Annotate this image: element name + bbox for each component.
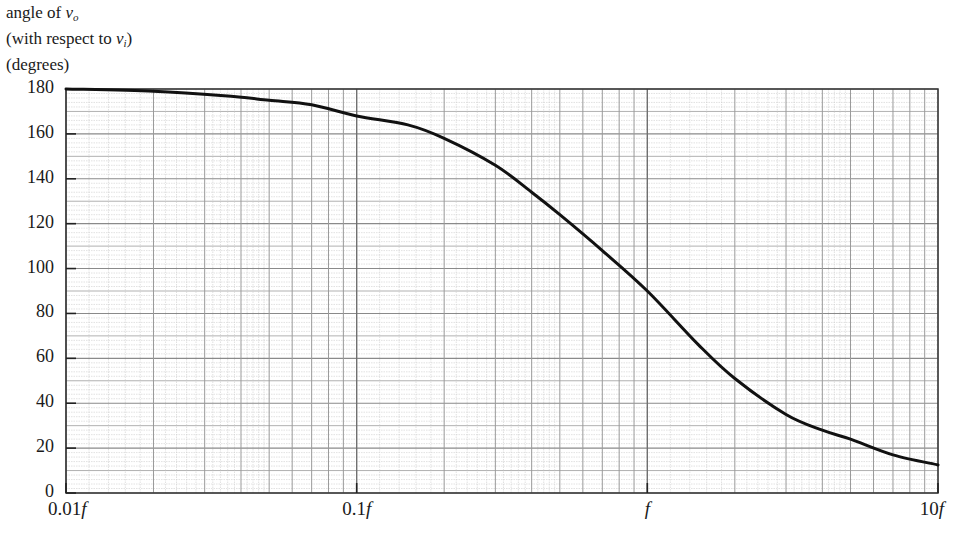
- y-tick-label: 100: [2, 257, 54, 278]
- y-tick-label: 60: [2, 346, 54, 367]
- x-tick-label: 10f: [920, 498, 944, 520]
- y-tick-label: 20: [2, 436, 54, 457]
- x-tick-label: 0.1f: [342, 498, 371, 520]
- x-tick-label: 0.01f: [48, 498, 87, 520]
- y-tick-label: 120: [2, 212, 54, 233]
- y-tick-label: 40: [2, 391, 54, 412]
- y-tick-label: 140: [2, 167, 54, 188]
- minor-grid: [66, 89, 938, 493]
- phase-plot: [0, 0, 970, 548]
- y-tick-label: 80: [2, 301, 54, 322]
- y-tick-label: 160: [2, 122, 54, 143]
- x-tick-label: f: [645, 498, 650, 520]
- y-tick-label: 0: [2, 481, 54, 502]
- y-tick-label: 180: [2, 77, 54, 98]
- phase-curve: [66, 89, 938, 465]
